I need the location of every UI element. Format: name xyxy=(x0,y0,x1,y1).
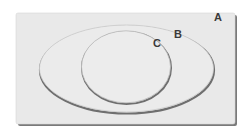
set-c-label: C xyxy=(153,38,161,49)
set-a-label: A xyxy=(214,12,222,23)
venn-diagram: A B C xyxy=(0,0,251,133)
set-b-label: B xyxy=(174,29,182,40)
